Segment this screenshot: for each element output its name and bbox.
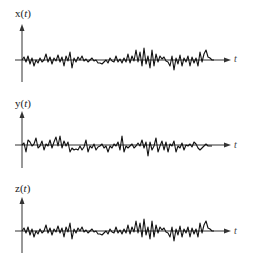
arrow-up-icon [20, 197, 25, 204]
signal-plot-z [0, 0, 254, 270]
arrow-right-icon [224, 229, 231, 234]
signal-panel-z: z(t) t [0, 0, 254, 270]
